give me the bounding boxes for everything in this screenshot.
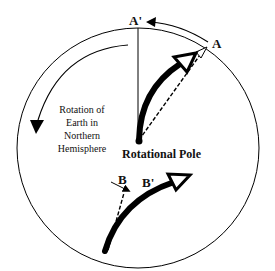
caption-line-1: Rotation of	[59, 104, 105, 115]
label-b: B	[118, 172, 127, 187]
caption-line-3: Northern	[64, 130, 100, 141]
label-a: A	[212, 36, 222, 51]
a-to-aprime-arrow	[150, 22, 208, 42]
coriolis-diagram: A' A B B' Rotational Pole Rotation of Ea…	[0, 0, 275, 271]
pole-dot-icon	[136, 138, 143, 145]
deflected-path-from-equator-side	[105, 182, 174, 251]
arrowhead-aprime-icon	[146, 17, 156, 27]
label-a-prime: A'	[129, 13, 142, 28]
rotation-caption: Rotation of Earth in Northern Hemisphere	[58, 104, 107, 154]
label-b-prime: B'	[142, 175, 154, 190]
caption-line-4: Hemisphere	[58, 143, 107, 154]
deflected-path-from-pole	[139, 64, 180, 140]
label-rotational-pole: Rotational Pole	[122, 147, 202, 161]
deflected-arrowhead-b-icon	[168, 174, 190, 190]
rotation-arrowhead-icon	[30, 120, 44, 134]
caption-line-2: Earth in	[66, 117, 98, 128]
